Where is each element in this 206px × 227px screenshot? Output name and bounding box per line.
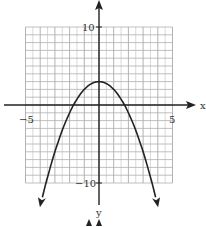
y-max-label: 10 [82,22,95,33]
curve-right-arrow-icon [152,197,160,207]
y-min-label: −10 [75,178,96,189]
curve-left-arrow-icon [38,197,46,207]
x-max-label: 5 [169,114,175,125]
x-axis-label: x [200,100,206,111]
y-axis [95,0,103,205]
y-axis-label: y [95,207,102,218]
parabola-chart: x y −5 5 10 −10 [0,0,206,227]
marker-triangle-icon [96,219,102,226]
marker-triangle-icon [86,219,92,226]
x-min-label: −5 [19,114,34,125]
